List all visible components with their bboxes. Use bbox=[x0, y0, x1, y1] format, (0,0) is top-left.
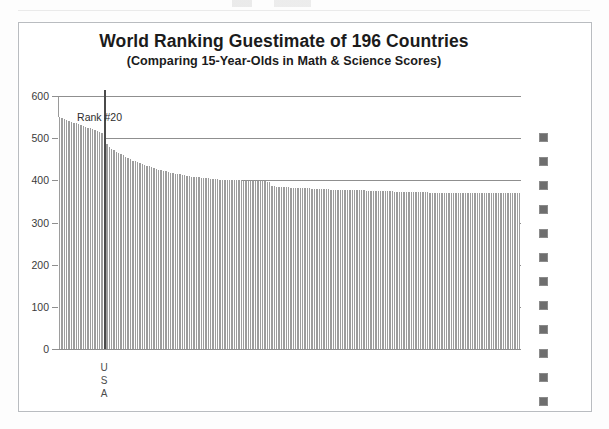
legend-marker[interactable] bbox=[539, 229, 548, 238]
y-axis-label-0: 0 bbox=[43, 343, 49, 355]
legend-marker[interactable] bbox=[539, 205, 548, 214]
legend-marker[interactable] bbox=[539, 277, 548, 286]
legend-marker[interactable] bbox=[539, 397, 548, 406]
y-axis-label-500: 500 bbox=[31, 132, 49, 144]
legend-marker[interactable] bbox=[539, 301, 548, 310]
y-tick-0 bbox=[52, 349, 58, 350]
legend-marker[interactable] bbox=[539, 157, 548, 166]
usa-letter: U bbox=[97, 361, 111, 374]
legend-marker[interactable] bbox=[539, 181, 548, 190]
screenshot-canvas: World Ranking Guestimate of 196 Countrie… bbox=[0, 0, 609, 429]
usa-marker-line bbox=[104, 90, 106, 349]
plot-area: 0100200300400500600 USARank #20 bbox=[58, 96, 521, 349]
y-axis-label-300: 300 bbox=[31, 217, 49, 229]
legend-marker[interactable] bbox=[539, 253, 548, 262]
chart-subtitle: (Comparing 15-Year-Olds in Math & Scienc… bbox=[19, 54, 549, 68]
y-axis-label-400: 400 bbox=[31, 174, 49, 186]
legend[interactable] bbox=[539, 133, 563, 421]
y-axis-label-200: 200 bbox=[31, 259, 49, 271]
y-axis-label-100: 100 bbox=[31, 301, 49, 313]
y-axis-label-600: 600 bbox=[31, 90, 49, 102]
scan-artifact bbox=[232, 0, 342, 7]
chart-title: World Ranking Guestimate of 196 Countrie… bbox=[19, 31, 549, 52]
usa-letter: S bbox=[97, 374, 111, 387]
gridline-0 bbox=[58, 349, 521, 350]
usa-letter: A bbox=[97, 387, 111, 400]
usa-axis-label: USA bbox=[97, 361, 111, 400]
rank-20-annotation: Rank #20 bbox=[77, 111, 122, 123]
legend-marker[interactable] bbox=[539, 373, 548, 382]
legend-marker[interactable] bbox=[539, 325, 548, 334]
legend-marker[interactable] bbox=[539, 133, 548, 142]
scan-edge-line bbox=[18, 10, 590, 11]
bar bbox=[518, 193, 520, 349]
chart-frame: World Ranking Guestimate of 196 Countrie… bbox=[18, 22, 592, 412]
legend-marker[interactable] bbox=[539, 349, 548, 358]
bar-series bbox=[58, 96, 521, 349]
